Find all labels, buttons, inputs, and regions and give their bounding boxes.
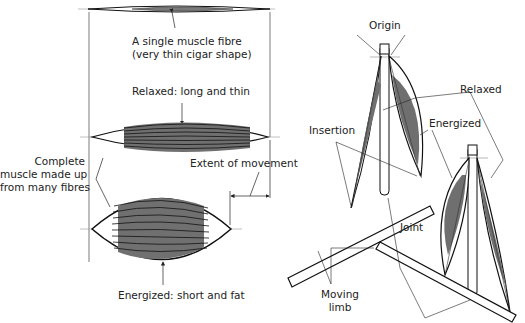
relaxed-right-label: Relaxed (460, 83, 502, 96)
joint-label: Joint (400, 221, 423, 234)
origin-label: Origin (369, 19, 401, 32)
extent-of-movement-label: Extent of movement (190, 157, 298, 170)
relaxed-muscle (80, 103, 280, 152)
single-fibre (78, 6, 275, 28)
complete-muscle-label-line1: Complete (0, 155, 85, 168)
complete-muscle-label-line3: from many fibres (0, 181, 85, 194)
relaxed-label: Relaxed: long and thin (132, 85, 250, 98)
insertion-label: Insertion (309, 124, 355, 137)
extent-of-movement-marker (230, 140, 270, 225)
complete-leader-2 (96, 179, 110, 207)
moving-limb-label-line2: limb (315, 301, 365, 314)
energized-right-label: Energized (429, 117, 481, 130)
energized-muscle (80, 198, 242, 285)
complete-muscle-label-line2: muscle made up (0, 168, 85, 181)
arm-relaxed-position (288, 44, 434, 287)
muscle-diagram: A single muscle fibre (very thin cigar s… (0, 0, 525, 323)
single-fibre-label-line2: (very thin cigar shape) (132, 48, 252, 61)
moving-limb-label-line1: Moving (315, 288, 365, 301)
energized-label: Energized: short and fat (118, 289, 245, 302)
complete-leader-1 (96, 158, 103, 179)
single-fibre-label-line1: A single muscle fibre (132, 35, 242, 48)
